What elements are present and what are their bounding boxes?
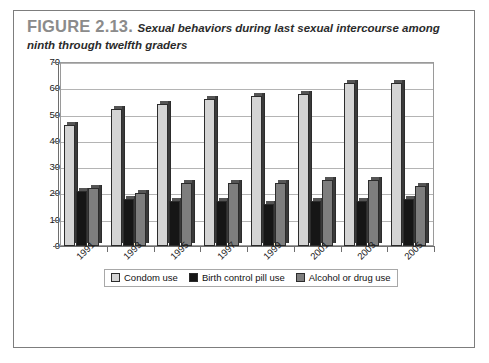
x-tick-mark (200, 247, 201, 252)
bar-side (379, 177, 382, 243)
bar-face (123, 199, 134, 246)
bar-face (368, 180, 379, 246)
bar-birth-control-pill-use-1999 (263, 204, 274, 246)
bar-alcohol-or-drug-use-1999 (275, 183, 286, 246)
bar-condom-use-1995 (157, 104, 168, 246)
bar-alcohol-or-drug-use-1993 (135, 193, 146, 246)
legend-item-2: Alcohol or drug use (296, 272, 391, 283)
bar-condom-use-1997 (204, 99, 215, 246)
legend-swatch-icon (296, 273, 305, 282)
figure-container: FIGURE 2.13. Sexual behaviors during las… (13, 10, 475, 348)
x-tick-mark (434, 247, 435, 252)
bar-face (181, 183, 192, 246)
figure-label: FIGURE 2.13. (27, 17, 133, 35)
x-tick-mark (154, 247, 155, 252)
bar-birth-control-pill-use-1997 (216, 201, 227, 246)
bar-face (356, 201, 367, 246)
bar-face (76, 191, 87, 246)
bar-face (344, 83, 355, 246)
bar-birth-control-pill-use-2003 (356, 201, 367, 246)
legend-label: Condom use (124, 272, 178, 283)
bar-face (88, 188, 99, 246)
bar-alcohol-or-drug-use-1997 (228, 183, 239, 246)
figure-caption: FIGURE 2.13. Sexual behaviors during las… (27, 19, 463, 53)
bar-face (298, 94, 309, 246)
bar-side (99, 185, 102, 243)
bar-side (333, 177, 336, 243)
bar-condom-use-2003 (344, 83, 355, 246)
legend-item-1: Birth control pill use (189, 272, 285, 283)
x-tick-mark (387, 247, 388, 252)
bar-alcohol-or-drug-use-2003 (368, 180, 379, 246)
bar-condom-use-1991 (64, 125, 75, 246)
bar-face (415, 186, 426, 246)
bar-face (135, 193, 146, 246)
bar-face (157, 104, 168, 246)
x-tick-mark (294, 247, 295, 252)
bar-alcohol-or-drug-use-1995 (181, 183, 192, 246)
bar-birth-control-pill-use-1993 (123, 199, 134, 246)
bar-condom-use-1993 (111, 109, 122, 246)
legend-label: Alcohol or drug use (309, 272, 391, 283)
bar-side (146, 190, 149, 243)
legend-swatch-icon (189, 273, 198, 282)
bar-face (228, 183, 239, 246)
x-tick-mark (247, 247, 248, 252)
bar-side (192, 180, 195, 243)
chart: 010203040506070 199119931995199719992001… (22, 57, 468, 341)
bar-condom-use-2005 (391, 83, 402, 246)
bar-birth-control-pill-use-2001 (310, 201, 321, 246)
bars-layer (60, 62, 434, 246)
bar-face (111, 109, 122, 246)
bar-alcohol-or-drug-use-2005 (415, 186, 426, 246)
x-tick-mark (107, 247, 108, 252)
bar-face (275, 183, 286, 246)
bar-face (204, 99, 215, 246)
legend-item-0: Condom use (111, 272, 178, 283)
bar-face (64, 125, 75, 246)
bar-face (169, 201, 180, 246)
bar-side (426, 183, 429, 243)
bar-alcohol-or-drug-use-1991 (88, 188, 99, 246)
bar-side (239, 180, 242, 243)
chart-legend: Condom useBirth control pill useAlcohol … (104, 269, 398, 287)
bar-condom-use-2001 (298, 94, 309, 246)
bar-face (403, 199, 414, 246)
bar-face (263, 204, 274, 246)
bar-side (286, 180, 289, 243)
bar-condom-use-1999 (251, 96, 262, 246)
legend-label: Birth control pill use (202, 272, 285, 283)
legend-swatch-icon (111, 273, 120, 282)
bar-birth-control-pill-use-1991 (76, 191, 87, 246)
bar-face (310, 201, 321, 246)
bar-face (391, 83, 402, 246)
x-tick-mark (341, 247, 342, 252)
bar-alcohol-or-drug-use-2001 (322, 180, 333, 246)
y-axis-line (58, 62, 59, 247)
bar-face (251, 96, 262, 246)
bar-face (322, 180, 333, 246)
y-axis: 010203040506070 (22, 57, 60, 257)
bar-birth-control-pill-use-2005 (403, 199, 414, 246)
bar-face (216, 201, 227, 246)
bar-birth-control-pill-use-1995 (169, 201, 180, 246)
